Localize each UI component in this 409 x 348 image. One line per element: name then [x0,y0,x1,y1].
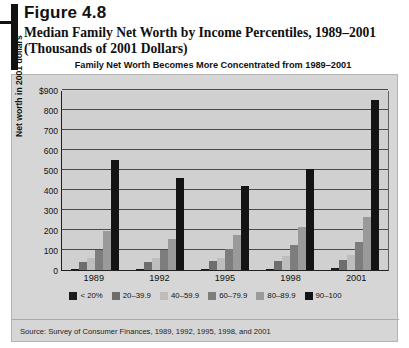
figure-number: Figure 4.8 [24,3,106,23]
figure-container: Figure 4.8 Median Family Net Worth by In… [0,0,409,348]
bar-group [323,91,388,270]
legend-label: 80–89.9 [267,291,295,300]
x-tick-label: 1989 [61,273,127,283]
legend-label: 20–39.9 [123,291,151,300]
legend-item[interactable]: 90–100 [305,291,342,300]
bar [266,269,274,270]
x-tick-label: 1998 [258,273,324,283]
bar [111,160,119,270]
y-tick-label: 600 [44,146,58,156]
bar [274,261,282,270]
y-tick-label: 200 [44,226,58,236]
bar [144,262,152,270]
bar [347,255,355,270]
legend-label: < 20% [80,291,102,300]
bar [225,249,233,270]
bar [217,258,225,270]
legend-item[interactable]: 80–89.9 [256,291,295,300]
bar [233,235,241,270]
y-tick-label: 800 [44,106,58,116]
bar [282,256,290,270]
legend-swatch [160,292,168,300]
y-tick-label: 100 [44,246,58,256]
bar [160,250,168,270]
bar [339,260,347,270]
legend-swatch [69,292,77,300]
legend-swatch [256,292,264,300]
bar [371,100,379,270]
bar-group [62,91,127,270]
bar [201,269,209,270]
y-tick-label: 500 [44,166,58,176]
y-tick-label: $900 [39,86,58,96]
x-tick-label: 2001 [323,273,389,283]
plot-area: Net worth in 2001 dollars 01002003004005… [12,79,399,284]
bar [209,261,217,270]
x-axis-labels: 19891992199519982001 [61,273,389,283]
bar [176,178,184,270]
source-note: Source: Survey of Consumer Finances, 198… [20,327,271,336]
bar [355,242,363,270]
bar-groups [62,91,388,270]
figure-title: Median Family Net Worth by Income Percen… [24,25,402,56]
plot-canvas [61,91,389,271]
x-tick-label: 1995 [192,273,258,283]
legend-label: 40–59.9 [171,291,199,300]
bar [95,250,103,270]
y-tick-label: 400 [44,186,58,196]
bar [168,239,176,270]
bar [290,245,298,270]
bar [79,262,87,270]
source-divider [12,319,399,320]
bar [136,269,144,270]
figure-subtitle: Family Net Worth Becomes More Concentrat… [24,60,402,70]
y-tick-label: 700 [44,126,58,136]
bar-group [192,91,257,270]
y-axis-label: Net worth in 2001 dollars [14,47,24,137]
bar [241,186,249,270]
legend-item[interactable]: 40–59.9 [160,291,199,300]
legend-label: 60–79.9 [219,291,247,300]
bar [87,258,95,270]
y-axis-ticks: 0100200300400500600700800$900 [24,91,58,271]
chart-panel: Net worth in 2001 dollars 01002003004005… [11,74,398,342]
bar [363,217,371,270]
bar [306,169,314,270]
bar [331,268,339,270]
legend-swatch [208,292,216,300]
bar [152,258,160,270]
legend-label: 90–100 [316,291,342,300]
x-tick-label: 1992 [127,273,193,283]
bar [103,231,111,270]
legend-swatch [305,292,313,300]
y-tick-label: 0 [53,266,58,276]
gridline [62,89,388,90]
legend-swatch [112,292,120,300]
legend-item[interactable]: < 20% [69,291,102,300]
bar-group [258,91,323,270]
bar-group [127,91,192,270]
chart-legend: < 20%20–39.940–59.960–79.980–89.990–100 [12,291,399,300]
legend-item[interactable]: 20–39.9 [112,291,151,300]
legend-item[interactable]: 60–79.9 [208,291,247,300]
bar [71,269,79,270]
bar [298,227,306,270]
y-tick-label: 300 [44,206,58,216]
